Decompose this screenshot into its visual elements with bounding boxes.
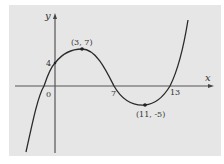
y-intercept-label: 4 (46, 59, 51, 68)
max-point-marker (80, 47, 84, 51)
chart-svg: y x 0 4 7 13 (3, 7) (11, -5) (0, 0, 224, 164)
max-point-label: (3, 7) (71, 38, 93, 47)
x-axis-label: x (205, 72, 211, 83)
y-axis-arrow-icon (53, 13, 57, 19)
min-point-marker (143, 103, 147, 107)
y-intercept-marker (54, 62, 57, 65)
x-axis-arrow-icon (208, 84, 214, 88)
min-point-label: (11, -5) (136, 110, 165, 119)
root-13-label: 13 (170, 88, 180, 97)
root-7-label: 7 (111, 89, 116, 98)
y-axis-label: y (44, 10, 51, 21)
origin-label: 0 (46, 90, 51, 99)
